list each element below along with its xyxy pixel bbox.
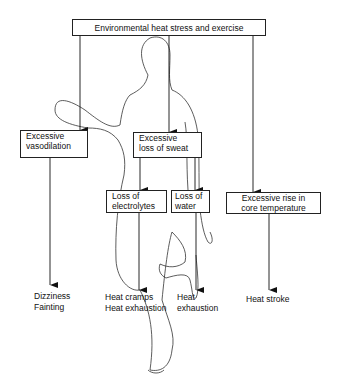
- root-box-environmental-heat-stress: Environmental heat stress and exercise: [72, 19, 266, 36]
- node-label-line2: electrolytes: [112, 201, 155, 211]
- node-excessive-loss-of-sweat: Excessive loss of sweat: [133, 132, 202, 158]
- node-label-line1: Loss of: [112, 191, 139, 201]
- outcome-line1: Heat: [177, 292, 218, 303]
- node-label-line2: core temperature: [241, 203, 306, 213]
- node-label-line1: Excessive: [26, 131, 64, 141]
- node-excessive-rise-in-core-temperature: Excessive rise in core temperature: [226, 192, 321, 214]
- outcome-heat-stroke: Heat stroke: [246, 294, 289, 305]
- node-label-line1: Excessive: [139, 133, 177, 143]
- node-label-line2: water: [175, 201, 196, 211]
- outcome-line1: Heat cramps: [105, 292, 166, 303]
- node-label-line2: vasodilation: [26, 141, 71, 151]
- outcome-line1: Heat stroke: [246, 294, 289, 305]
- outcome-dizziness-fainting: Dizziness Fainting: [34, 291, 70, 313]
- node-label-line1: Loss of: [175, 191, 202, 201]
- node-loss-of-water: Loss of water: [171, 190, 210, 213]
- outcome-line2: Fainting: [34, 302, 70, 313]
- node-label-line2: loss of sweat: [139, 143, 188, 153]
- outcome-line2: exhaustion: [177, 303, 218, 314]
- node-loss-of-electrolytes: Loss of electrolytes: [106, 190, 167, 213]
- outcome-line1: Dizziness: [34, 291, 70, 302]
- outcome-line2: Heat exhaustion: [105, 303, 166, 314]
- root-label: Environmental heat stress and exercise: [95, 23, 244, 33]
- node-excessive-vasodilation: Excessive vasodilation: [20, 130, 88, 158]
- node-label-line1: Excessive rise in: [242, 193, 305, 203]
- outcome-heat-exhaustion: Heat exhaustion: [177, 292, 218, 314]
- outcome-heat-cramps-exhaustion: Heat cramps Heat exhaustion: [105, 292, 166, 314]
